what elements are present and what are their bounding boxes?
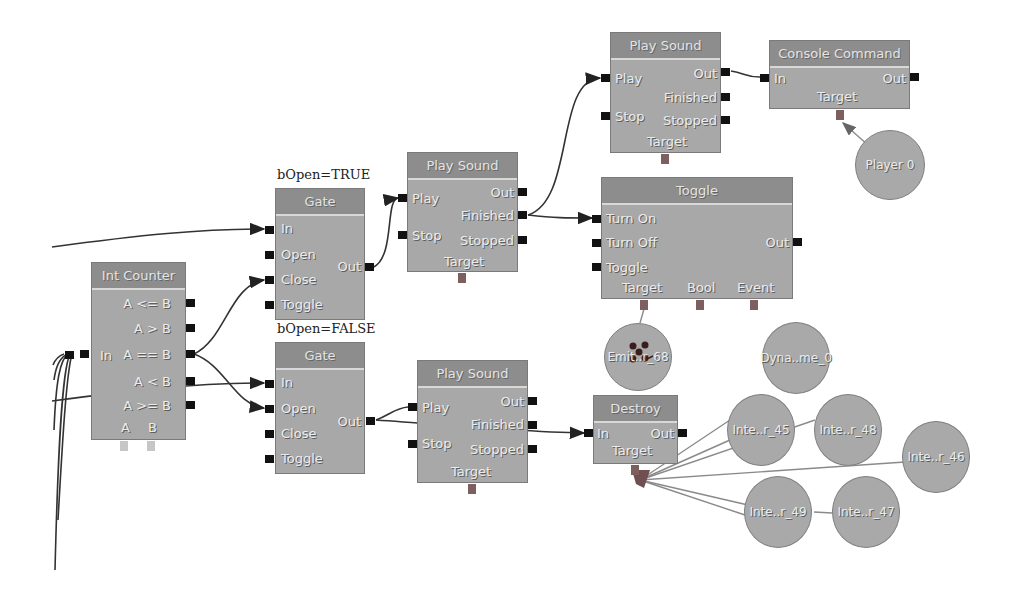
output-label: A > B [134,321,171,337]
reroute-connector[interactable] [65,351,74,359]
output-connector-finished[interactable] [528,421,537,429]
output-label: Out [337,414,361,430]
console-command-node[interactable]: Console Command In Out Target [769,40,910,109]
output-connector-finished[interactable] [518,211,527,219]
input-connector-in[interactable] [584,429,593,437]
output-label: A >= B [123,398,171,414]
input-connector-stop[interactable] [601,112,610,120]
variable-inte-49[interactable]: Inte..r_49 [744,476,812,548]
output-connector[interactable] [186,299,195,307]
output-connector-out[interactable] [518,188,527,196]
input-label: Open [281,247,316,263]
variable-dynamic[interactable]: Dyna..me_0 [762,322,830,394]
gate-top-caption: bOpen=TRUE [277,167,370,182]
output-label: A == B [123,347,171,363]
output-connector-out[interactable] [721,68,730,76]
int-counter-node[interactable]: Int Counter In A <= B A > B A == B A < B… [91,262,186,440]
wire-to-gate-top-in [52,229,264,247]
wire-eq-to-gate-top-close [194,280,264,354]
variable-inte-48[interactable]: Inte..r_48 [814,394,882,466]
variable-inte-45[interactable]: Inte..r_45 [727,394,795,466]
destroy-node[interactable]: Destroy In Out Target [593,395,678,464]
var-label-target: Target [817,89,857,105]
var-connector-target[interactable] [631,465,639,475]
output-label: Out [882,71,906,87]
input-connector-toggle[interactable] [592,263,601,271]
input-connector[interactable] [265,251,274,259]
output-connector[interactable] [186,377,195,385]
input-connector-stop[interactable] [408,440,417,448]
input-label: Turn Off [606,235,657,251]
toggle-node[interactable]: Toggle Turn On Turn Off Toggle Out Targe… [601,177,793,299]
node-title: Gate [276,189,364,216]
var-connector-bool[interactable] [696,300,704,310]
var-label-bool: Bool [687,280,715,296]
input-connector[interactable] [265,301,274,309]
var-connector-a[interactable] [120,441,128,451]
node-title: Console Command [770,41,909,68]
output-connector-out[interactable] [910,73,919,81]
output-connector-out[interactable] [678,429,687,437]
play-sound-bottom-node[interactable]: Play Sound Play Stop Out Finished Stoppe… [417,360,528,483]
var-connector-target[interactable] [458,273,466,283]
output-connector-out[interactable] [528,397,537,405]
node-title: Play Sound [611,33,720,60]
output-connector-out[interactable] [793,238,802,246]
gate-bottom-node[interactable]: Gate In Open Close Toggle Out [275,342,365,474]
output-connector[interactable] [186,401,195,409]
wire-gate-bottom-out-to-play [376,407,408,420]
output-label: Finished [664,90,717,106]
input-connector-stop[interactable] [398,231,407,239]
input-label: Stop [615,109,645,125]
input-label: In [774,71,786,87]
var-connector-target[interactable] [661,154,669,164]
var-label-target: Target [451,464,491,480]
input-connector[interactable] [265,455,274,463]
output-connector[interactable] [186,350,195,358]
input-connector[interactable] [265,226,274,234]
output-label: Out [490,185,514,201]
variable-emitter[interactable]: Emit..r_68 [604,323,672,391]
node-title: Play Sound [408,153,517,180]
input-connector-play[interactable] [408,403,417,411]
var-connector-event[interactable] [750,300,758,310]
var-connector-b[interactable] [147,441,155,451]
play-sound-mid-node[interactable]: Play Sound Play Stop Out Finished Stoppe… [407,152,518,272]
output-label: Finished [471,417,524,433]
input-connector-turn-on[interactable] [592,215,601,223]
variable-inte-47[interactable]: Inte..r_47 [832,476,900,548]
var-label-event: Event [737,280,774,296]
input-connector-turn-off[interactable] [592,239,601,247]
output-label: Finished [461,208,514,224]
variable-label: Emit..r_68 [607,350,668,364]
output-connector-finished[interactable] [721,93,730,101]
variable-player[interactable]: Player 0 [855,130,925,200]
output-connector[interactable] [366,417,375,425]
input-connector-play[interactable] [398,194,407,202]
output-connector[interactable] [186,324,195,332]
wire-finished-to-toggle-on [528,215,592,218]
input-connector[interactable] [265,405,274,413]
input-connector[interactable] [265,430,274,438]
input-connector-play[interactable] [601,74,610,82]
wire-eq-to-gate-bottom-open [194,354,264,408]
var-connector-target[interactable] [468,484,476,494]
input-connector[interactable] [265,276,274,284]
var-connector-target[interactable] [640,300,648,310]
input-label: Close [281,426,316,442]
input-connector[interactable] [265,380,274,388]
node-title: Toggle [602,178,792,205]
output-connector-stopped[interactable] [528,445,537,453]
output-connector-stopped[interactable] [518,236,527,244]
output-connector[interactable] [365,263,374,271]
variable-inte-46[interactable]: Inte..r_46 [902,421,970,493]
input-connector-in[interactable] [760,74,769,82]
input-connector-in[interactable] [80,350,89,358]
gate-top-node[interactable]: Gate In Open Close Toggle Out [275,188,365,320]
var-connector-target[interactable] [836,110,844,120]
play-sound-top-node[interactable]: Play Sound Play Stop Out Finished Stoppe… [610,32,721,153]
output-connector-stopped[interactable] [721,116,730,124]
input-label: In [281,375,293,391]
output-label: Stopped [663,113,717,129]
input-label: Play [615,71,642,87]
